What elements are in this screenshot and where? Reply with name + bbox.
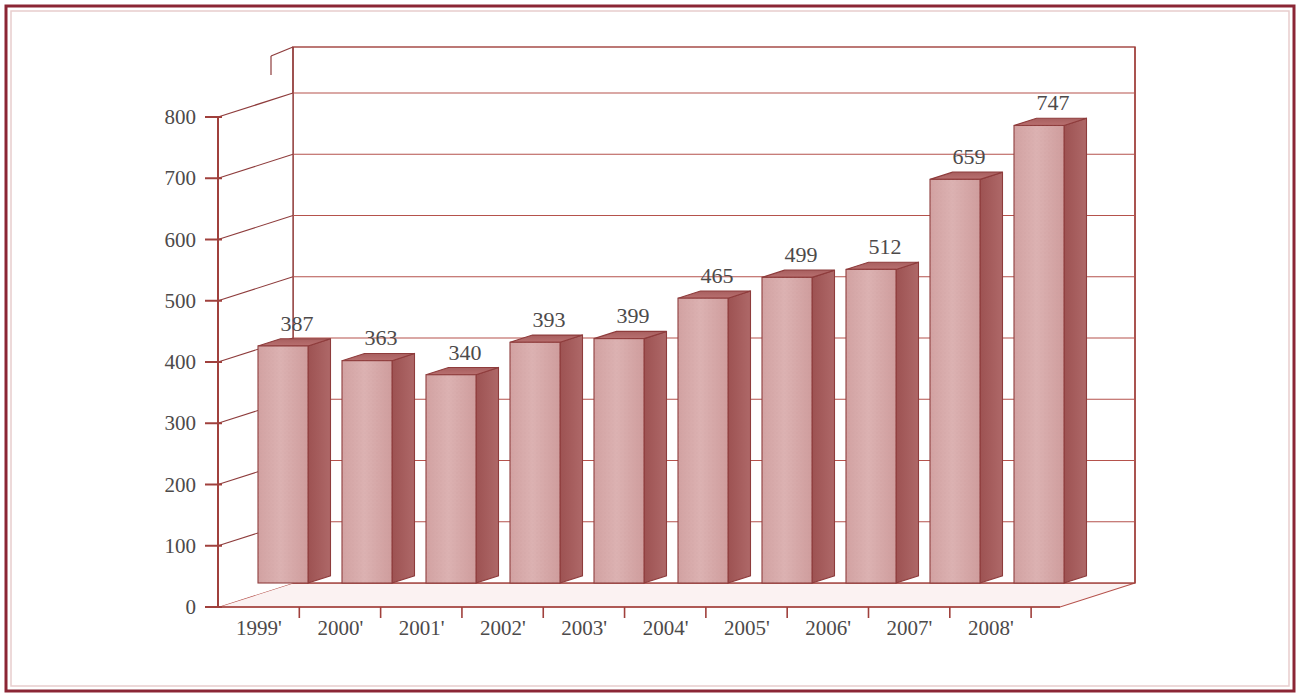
y-tick-label: 300: [165, 411, 197, 435]
x-axis-category-label: 2006': [805, 616, 851, 640]
bar-front-texture: [510, 342, 560, 583]
y-tick-label: 500: [165, 289, 197, 313]
bar-side-face: [728, 291, 751, 583]
x-axis-category-label: 2000': [317, 616, 363, 640]
bar-value-label: 387: [281, 311, 314, 336]
y-tick-label: 800: [165, 105, 197, 129]
x-axis-category-label: 2005': [724, 616, 770, 640]
bar-column: [510, 335, 583, 583]
bar-column: [762, 270, 835, 583]
bar-column: [930, 172, 1003, 583]
x-axis-category-label: 2008': [968, 616, 1014, 640]
y-tick-label: 0: [186, 595, 197, 619]
y-tick-label: 200: [165, 473, 197, 497]
bar-value-label: 399: [617, 303, 650, 328]
x-axis-category-label: 2002': [480, 616, 526, 640]
bar-column: [594, 331, 667, 583]
y-tick-label: 600: [165, 228, 197, 252]
x-axis-category-label: 2004': [643, 616, 689, 640]
bar-chart-3d: 0 100 200 300 400 500 600 700 800 1999'2…: [0, 0, 1300, 697]
bar-front-texture: [678, 298, 728, 583]
bar-side-face: [644, 331, 667, 583]
y-tick-label: 700: [165, 166, 197, 190]
y-tick-label: 100: [165, 534, 197, 558]
bar-side-face: [560, 335, 583, 583]
bar-value-label: 363: [365, 325, 398, 350]
x-axis-category-label: 2003': [561, 616, 607, 640]
chart-frame: 0 100 200 300 400 500 600 700 800 1999'2…: [0, 0, 1300, 697]
bar-front-texture: [594, 339, 644, 583]
floor-plane: [218, 583, 1135, 607]
x-axis-category-label: 1999': [236, 616, 282, 640]
bar-value-label: 659: [953, 144, 986, 169]
bar-column: [846, 262, 919, 583]
bar-side-face: [1064, 118, 1087, 583]
bar-side-face: [392, 353, 415, 583]
bar-side-face: [980, 172, 1003, 583]
bar-column: [678, 291, 751, 583]
bar-column: [1014, 118, 1087, 583]
bar-front-texture: [342, 361, 392, 583]
bar-front-texture: [846, 269, 896, 583]
bar-front-texture: [1014, 125, 1064, 583]
y-tick-label: 400: [165, 350, 197, 374]
bar-value-label: 465: [701, 263, 734, 288]
bar-front-texture: [930, 179, 980, 583]
bar-side-face: [476, 368, 499, 583]
bar-side-face: [896, 262, 919, 583]
bar-column: [426, 368, 499, 583]
bar-column: [258, 339, 331, 583]
y-axis-tick-labels: 0 100 200 300 400 500 600 700 800: [165, 105, 197, 619]
bar-value-label: 499: [785, 242, 818, 267]
bar-value-label: 340: [449, 340, 482, 365]
bar-value-label: 512: [869, 234, 902, 259]
bar-value-label: 393: [533, 307, 566, 332]
bar-side-face: [812, 270, 835, 583]
bar-front-texture: [426, 375, 476, 583]
bar-front-texture: [762, 277, 812, 583]
bar-front-texture: [258, 346, 308, 583]
bar-side-face: [308, 339, 331, 583]
x-axis-category-label: 2001': [399, 616, 445, 640]
bar-value-label: 747: [1037, 90, 1070, 115]
bar-column: [342, 353, 415, 583]
x-axis-category-label: 2007': [887, 616, 933, 640]
